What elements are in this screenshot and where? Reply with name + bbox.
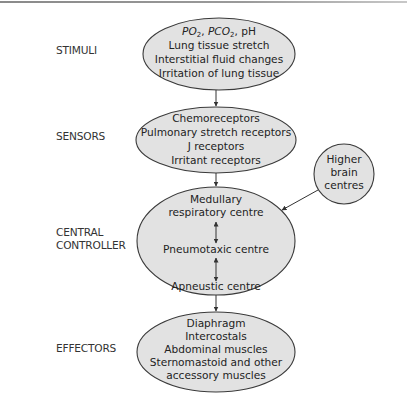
effectors-line: Sternomastoid and other xyxy=(150,356,283,368)
respiratory-control-diagram: STIMULI SENSORS CENTRAL CONTROLLER EFFEC… xyxy=(0,0,407,403)
stimuli-line: Irritation of lung tissue xyxy=(159,67,279,79)
sensors-line: J receptors xyxy=(187,140,245,152)
higher-brain-line: Higher xyxy=(326,153,362,165)
stimuli-line: Lung tissue stretch xyxy=(169,39,270,51)
effectors-line: accessory muscles xyxy=(166,369,266,381)
stage-label-sensors: SENSORS xyxy=(56,130,106,142)
effectors-line: Diaphragm xyxy=(187,317,246,329)
effectors-line: Intercostals xyxy=(185,330,247,342)
controller-medullary-line2: respiratory centre xyxy=(168,206,263,218)
controller-pneumotaxic: Pneumotaxic centre xyxy=(163,243,269,255)
stage-label-effectors: EFFECTORS xyxy=(56,342,117,354)
stimuli-line: Interstitial fluid changes xyxy=(155,53,283,65)
effectors-line: Abdominal muscles xyxy=(164,343,267,355)
node-stimuli: PO2, PCO2, pH Lung tissue stretch Inters… xyxy=(143,18,295,90)
controller-apneustic: Apneustic centre xyxy=(171,280,261,292)
node-effectors: Diaphragm Intercostals Abdominal muscles… xyxy=(137,312,295,392)
stimuli-header: PO2, PCO2, pH xyxy=(182,25,256,39)
stage-label-stimuli: STIMULI xyxy=(56,44,97,56)
node-higher-brain-centres: Higher brain centres xyxy=(314,144,374,204)
sensors-line: Pulmonary stretch receptors xyxy=(141,126,291,138)
controller-medullary-line1: Medullary xyxy=(190,193,242,205)
sensors-line: Irritant receptors xyxy=(171,154,261,166)
stage-label-central-controller: CENTRAL CONTROLLER xyxy=(56,226,127,251)
node-central-controller: Medullary respiratory centre Pneumotaxic… xyxy=(137,187,295,295)
arrow-higher-brain-to-controller xyxy=(282,190,318,210)
sensors-line: Chemoreceptors xyxy=(172,112,260,124)
node-sensors: Chemoreceptors Pulmonary stretch recepto… xyxy=(136,107,296,173)
higher-brain-line: centres xyxy=(324,179,363,191)
higher-brain-line: brain xyxy=(330,166,357,178)
